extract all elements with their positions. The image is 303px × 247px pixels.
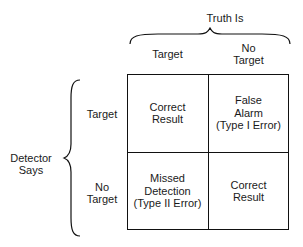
- cell-true-negative: Correct Result: [208, 152, 289, 230]
- left-brace: [60, 78, 82, 238]
- row-header-no-target: No Target: [80, 181, 124, 205]
- cell-false-alarm: False Alarm (Type I Error): [208, 74, 289, 152]
- truth-is-header: Truth Is: [180, 12, 270, 24]
- column-header-target: Target: [127, 48, 208, 60]
- cell-missed-detection: Missed Detection (Type II Error): [127, 152, 208, 230]
- row-header-target: Target: [80, 108, 124, 120]
- cell-true-positive: Correct Result: [127, 74, 208, 152]
- detector-says-header: Detector Says: [0, 152, 62, 176]
- column-header-no-target: No Target: [208, 42, 289, 66]
